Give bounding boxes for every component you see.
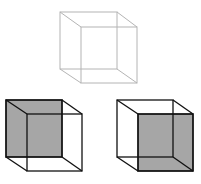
shaded-back-face [6,100,62,157]
edge-bottom-left [60,69,81,83]
edge-bottom-right [62,157,82,171]
edge-bottom-left [6,157,27,171]
edge-top-right [173,100,193,114]
shaded-front-face [138,114,193,171]
edge-top-right [62,100,82,114]
edge-top-right [117,12,137,27]
necker-cube-diagram [0,0,201,184]
front-face-edges [81,27,137,83]
back-face-edges [60,12,117,69]
edge-top-left [117,100,138,114]
edge-bottom-right [117,69,137,83]
edge-bottom-left [117,157,138,171]
diagram-canvas [0,0,201,184]
cube-ambiguous [60,12,137,83]
cube-interpretation-right [117,100,193,171]
cube-interpretation-left [6,100,82,171]
edge-top-left [60,12,81,27]
